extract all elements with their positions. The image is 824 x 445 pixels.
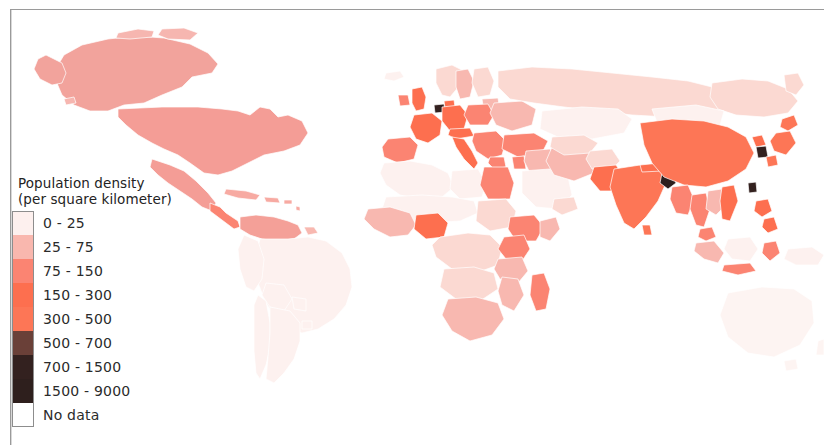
region-malaysia[interactable]: [698, 227, 716, 241]
legend-swatch: [12, 259, 34, 283]
region-cuba[interactable]: [224, 189, 260, 200]
region-sri-lanka[interactable]: [642, 225, 652, 235]
region-paraguay[interactable]: [292, 297, 306, 311]
legend-swatch: [12, 403, 34, 427]
legend-swatch: [12, 379, 34, 403]
region-new-guinea[interactable]: [784, 247, 824, 265]
region-japan-honshu[interactable]: [770, 131, 796, 155]
region-australia[interactable]: [720, 287, 814, 357]
region-taiwan[interactable]: [748, 182, 757, 193]
region-sweden[interactable]: [456, 69, 474, 99]
legend-label: 500 - 700: [34, 331, 112, 355]
region-puerto-rico[interactable]: [284, 200, 292, 204]
region-egypt[interactable]: [480, 167, 514, 199]
region-united-kingdom[interactable]: [412, 87, 426, 111]
region-angola-zambia[interactable]: [440, 267, 498, 301]
region-new-zealand[interactable]: [816, 339, 824, 355]
legend-label: No data: [34, 403, 99, 427]
region-balkans[interactable]: [472, 131, 506, 159]
region-madagascar[interactable]: [530, 273, 550, 311]
region-vietnam[interactable]: [720, 185, 738, 221]
region-argentina[interactable]: [266, 307, 300, 383]
legend-row[interactable]: 0 - 25: [12, 211, 212, 235]
region-kazakhstan[interactable]: [540, 107, 632, 139]
legend-row[interactable]: 150 - 300: [12, 283, 212, 307]
legend-title-line1: Population density: [18, 176, 212, 192]
region-philippines-1[interactable]: [754, 199, 772, 217]
region-canada[interactable]: [56, 36, 218, 111]
region-uruguay[interactable]: [302, 321, 312, 329]
legend-label: 25 - 75: [34, 235, 94, 259]
region-germany[interactable]: [442, 105, 468, 131]
legend-row[interactable]: 500 - 700: [12, 331, 212, 355]
region-sulawesi[interactable]: [762, 241, 780, 261]
region-north-korea[interactable]: [752, 135, 766, 147]
legend-swatch: [12, 283, 34, 307]
legend-swatch: [12, 331, 34, 355]
region-hispaniola[interactable]: [264, 197, 280, 203]
legend-row[interactable]: No data: [12, 403, 212, 427]
region-united-states[interactable]: [118, 107, 308, 175]
region-kenya-uganda[interactable]: [498, 235, 530, 261]
region-central-africa[interactable]: [432, 233, 502, 273]
legend-row[interactable]: 75 - 150: [12, 259, 212, 283]
region-mozambique[interactable]: [498, 277, 524, 311]
legend-label: 300 - 500: [34, 307, 112, 331]
region-india[interactable]: [610, 165, 666, 229]
region-ireland[interactable]: [398, 95, 410, 106]
legend-swatch: [12, 235, 34, 259]
region-poland[interactable]: [464, 104, 494, 125]
legend-swatch: [12, 307, 34, 331]
region-ukraine-belarus[interactable]: [490, 101, 536, 131]
region-levant[interactable]: [512, 156, 526, 169]
legend-swatch: [12, 355, 34, 379]
region-guyana-suriname[interactable]: [304, 227, 318, 235]
legend-rows: 0 - 2525 - 7575 - 150150 - 300300 - 5005…: [12, 211, 212, 427]
region-sumatra[interactable]: [694, 241, 724, 263]
map-page: Population density (per square kilometer…: [0, 0, 824, 445]
legend-swatch: [12, 211, 34, 235]
region-japan-hokkaido[interactable]: [780, 115, 798, 131]
region-central-america[interactable]: [210, 203, 240, 229]
legend-label: 700 - 1500: [34, 355, 121, 379]
legend-row[interactable]: 1500 - 9000: [12, 379, 212, 403]
region-iceland[interactable]: [384, 71, 404, 81]
legend-label: 150 - 300: [34, 283, 112, 307]
legend-label: 1500 - 9000: [34, 379, 130, 403]
region-borneo[interactable]: [724, 237, 758, 261]
legend-row[interactable]: 700 - 1500: [12, 355, 212, 379]
legend-label: 75 - 150: [34, 259, 103, 283]
region-java[interactable]: [722, 263, 756, 275]
region-morocco-algeria[interactable]: [380, 161, 454, 199]
legend-label: 0 - 25: [34, 211, 85, 235]
region-somalia[interactable]: [540, 217, 560, 241]
legend-title: Population density (per square kilometer…: [12, 176, 212, 207]
region-iberia[interactable]: [382, 137, 418, 163]
legend-row[interactable]: 300 - 500: [12, 307, 212, 331]
page-border-top: [10, 9, 824, 10]
region-lesser-antilles[interactable]: [296, 206, 300, 211]
legend-row[interactable]: 25 - 75: [12, 235, 212, 259]
region-finland[interactable]: [472, 67, 494, 97]
region-philippines-2[interactable]: [762, 217, 778, 233]
region-japan-kyushu[interactable]: [766, 155, 778, 167]
map-legend: Population density (per square kilometer…: [12, 176, 212, 427]
region-russia-kamchatka[interactable]: [784, 73, 804, 95]
region-south-korea[interactable]: [756, 146, 768, 158]
region-france[interactable]: [410, 113, 442, 143]
region-yemen-oman[interactable]: [552, 197, 578, 215]
region-greenland: [312, 27, 368, 77]
region-canada-arctic-1[interactable]: [116, 29, 154, 39]
legend-title-line2: (per square kilometer): [18, 192, 212, 208]
region-tasmania[interactable]: [784, 359, 798, 371]
region-southern-africa[interactable]: [442, 297, 504, 341]
